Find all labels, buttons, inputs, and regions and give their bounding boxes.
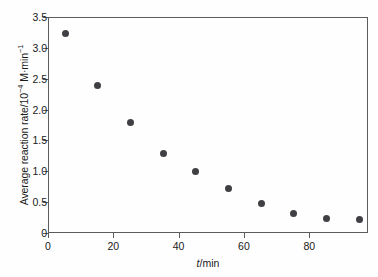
x-axis-tick-label: 0 — [28, 240, 68, 252]
y-axis-tick-label: 0 — [7, 228, 47, 238]
y-axis-tick-label: 3.5 — [7, 12, 47, 22]
x-axis-tick-mark — [48, 233, 49, 238]
x-axis-title: t/min — [48, 257, 368, 269]
x-axis-tick-mark — [113, 233, 114, 238]
y-axis-tick-label: 2.0 — [7, 105, 47, 115]
y-axis-tick-label: 1.0 — [7, 166, 47, 176]
data-point — [94, 82, 101, 89]
data-point — [225, 185, 232, 192]
x-axis-tick-label: 40 — [159, 240, 199, 252]
y-axis-title-exponent-1: −4 — [16, 85, 25, 93]
data-point — [192, 168, 199, 175]
x-axis-title-units: /min — [200, 257, 220, 269]
data-point — [290, 210, 297, 217]
data-point — [127, 119, 134, 126]
data-point — [356, 216, 363, 223]
y-axis-tick-label: 2.5 — [7, 74, 47, 84]
data-point — [160, 150, 167, 157]
y-axis-tick-label: 0.5 — [7, 197, 47, 207]
x-axis-tick-mark — [179, 233, 180, 238]
y-axis-tick-label: 3.0 — [7, 43, 47, 53]
x-axis-tick-mark — [309, 233, 310, 238]
x-axis-tick-label: 60 — [224, 240, 264, 252]
x-axis-tick-label: 20 — [93, 240, 133, 252]
data-point — [323, 215, 330, 222]
data-point — [258, 200, 265, 207]
reaction-rate-scatter-chart: Average reaction rate/10−4 M·min−1 00.51… — [0, 0, 378, 277]
x-axis-tick-mark — [244, 233, 245, 238]
plot-area — [48, 17, 368, 233]
x-axis-tick-label: 80 — [289, 240, 329, 252]
y-axis-tick-label: 1.5 — [7, 135, 47, 145]
data-point — [62, 30, 69, 37]
